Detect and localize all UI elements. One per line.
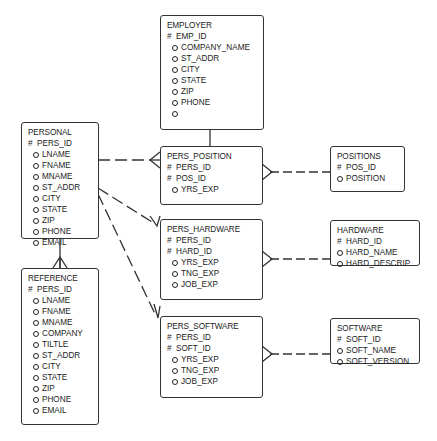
attribute: ZIP <box>28 383 98 394</box>
optional-circle-icon <box>33 342 39 348</box>
optional-circle-icon <box>337 176 343 182</box>
optional-circle-icon <box>337 348 343 354</box>
optional-circle-icon <box>33 196 39 202</box>
rel-personal-pers-hardware <box>98 188 152 222</box>
key-attribute: #PERS_ID <box>167 162 262 173</box>
attribute: STATE <box>167 75 263 86</box>
optional-circle-icon <box>33 408 39 414</box>
attribute: EMAIL <box>28 405 98 416</box>
attribute: CITY <box>28 193 98 204</box>
attribute: ST_ADDR <box>167 53 263 64</box>
key-attribute: #PERS_ID <box>28 284 98 295</box>
attribute: JOB_EXP <box>167 376 262 387</box>
attribute: ST_ADDR <box>28 182 98 193</box>
key-attribute: #EMP_ID <box>167 31 263 42</box>
optional-circle-icon <box>172 260 178 266</box>
attribute: STATE <box>28 372 98 383</box>
attribute: ZIP <box>28 215 98 226</box>
entity-title: REFERENCE <box>28 273 98 284</box>
key-attribute: #SOFT_ID <box>167 343 262 354</box>
attribute: CITY <box>28 361 98 372</box>
optional-circle-icon <box>172 89 178 95</box>
entity-title: POSITIONS <box>337 151 404 162</box>
attribute: PHONE <box>167 97 263 108</box>
optional-circle-icon <box>33 174 39 180</box>
entity-employer[interactable]: EMPLOYER #EMP_ID COMPANY_NAME ST_ADDR CI… <box>160 15 264 130</box>
entity-title: SOFTWARE <box>337 323 419 334</box>
optional-circle-icon <box>33 364 39 370</box>
attribute: PHONE <box>28 394 98 405</box>
optional-circle-icon <box>337 359 343 365</box>
key-attribute: #PERS_ID <box>167 235 262 246</box>
key-attribute: #HARD_ID <box>167 246 262 257</box>
key-attribute: #PERS_ID <box>167 332 262 343</box>
attribute: COMPANY <box>28 328 98 339</box>
optional-circle-icon <box>172 379 178 385</box>
key-attribute: #POS_ID <box>337 162 404 173</box>
entity-pers-hardware[interactable]: PERS_HARDWARE #PERS_ID #HARD_ID YRS_EXP … <box>160 219 263 300</box>
attribute: CITY <box>167 64 263 75</box>
crowfoot-pers-software-left <box>154 304 160 318</box>
key-attribute: #HARD_ID <box>337 236 419 247</box>
entity-reference[interactable]: REFERENCE #PERS_ID LNAME FNAME MNAME COM… <box>21 268 99 425</box>
entity-title: EMPLOYER <box>167 20 263 31</box>
attribute: LNAME <box>28 149 98 160</box>
optional-circle-icon <box>172 187 178 193</box>
attribute: LNAME <box>28 295 98 306</box>
attribute: ZIP <box>167 86 263 97</box>
attribute: TNG_EXP <box>167 268 262 279</box>
entity-pers-position[interactable]: PERS_POSITION #PERS_ID #POS_ID YRS_EXP <box>160 146 263 205</box>
optional-circle-icon <box>172 45 178 51</box>
entity-title: PERSONAL <box>28 127 98 138</box>
rel-personal-pers-software <box>98 194 156 316</box>
optional-circle-icon <box>33 240 39 246</box>
optional-circle-icon <box>172 67 178 73</box>
attribute: TNG_EXP <box>167 365 262 376</box>
entity-positions[interactable]: POSITIONS #POS_ID POSITION <box>330 146 405 192</box>
optional-circle-icon <box>33 386 39 392</box>
attribute: ST_ADDR <box>28 350 98 361</box>
attribute: MNAME <box>28 171 98 182</box>
key-attribute: #PERS_ID <box>28 138 98 149</box>
attribute: YRS_EXP <box>167 257 262 268</box>
optional-circle-icon <box>172 111 178 117</box>
attribute: HARD_DESCRIP <box>337 258 419 269</box>
attribute: POSITION <box>337 173 404 184</box>
key-attribute: #POS_ID <box>167 173 262 184</box>
entity-software[interactable]: SOFTWARE #SOFT_ID SOFT_NAME SOFT_VERSION <box>330 318 420 364</box>
optional-circle-icon <box>33 397 39 403</box>
optional-circle-icon <box>33 298 39 304</box>
attribute: PHONE <box>28 226 98 237</box>
attribute: TILTLE <box>28 339 98 350</box>
entity-title: PERS_HARDWARE <box>167 224 262 235</box>
attribute: EMAIL <box>28 237 98 248</box>
attribute: YRS_EXP <box>167 354 262 365</box>
optional-circle-icon <box>33 207 39 213</box>
entity-hardware[interactable]: HARDWARE #HARD_ID HARD_NAME HARD_DESCRIP <box>330 220 420 266</box>
attribute: COMPANY_NAME <box>167 42 263 53</box>
attribute-empty <box>167 108 263 119</box>
attribute: SOFT_VERSION <box>337 356 419 367</box>
optional-circle-icon <box>172 357 178 363</box>
entity-personal[interactable]: PERSONAL #PERS_ID LNAME FNAME MNAME ST_A… <box>21 122 99 239</box>
entity-pers-software[interactable]: PERS_SOFTWARE #PERS_ID #SOFT_ID YRS_EXP … <box>160 316 263 398</box>
entity-title: PERS_SOFTWARE <box>167 321 262 332</box>
optional-circle-icon <box>172 100 178 106</box>
attribute: FNAME <box>28 306 98 317</box>
optional-circle-icon <box>33 152 39 158</box>
optional-circle-icon <box>33 353 39 359</box>
optional-circle-icon <box>33 375 39 381</box>
optional-circle-icon <box>172 368 178 374</box>
attribute: JOB_EXP <box>167 279 262 290</box>
attribute: MNAME <box>28 317 98 328</box>
optional-circle-icon <box>33 309 39 315</box>
attribute: FNAME <box>28 160 98 171</box>
optional-circle-icon <box>172 271 178 277</box>
optional-circle-icon <box>33 331 39 337</box>
optional-circle-icon <box>33 218 39 224</box>
optional-circle-icon <box>172 56 178 62</box>
entity-title: PERS_POSITION <box>167 151 262 162</box>
attribute: YRS_EXP <box>167 184 262 195</box>
attribute: HARD_NAME <box>337 247 419 258</box>
optional-circle-icon <box>33 185 39 191</box>
